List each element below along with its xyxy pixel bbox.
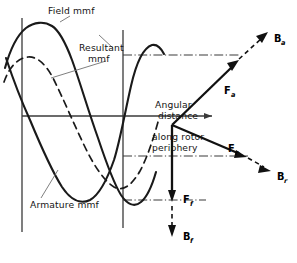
vector-bf-arrowhead [168, 225, 176, 237]
label-vector-ff-subscript: f [190, 200, 194, 208]
leader-armature-mmf [41, 170, 58, 198]
xaxis-label-line-1: Angular [155, 99, 192, 110]
label-vector-ba-subscript: a [281, 39, 286, 47]
curve-resultant-mmf [4, 57, 158, 189]
leader-field-mmf [60, 16, 70, 22]
label-vector-fa-subscript: a [231, 91, 236, 99]
label-vector-bf-subscript: f [190, 237, 194, 245]
label-armature-mmf: Armature mmf [30, 199, 100, 210]
vector-ba-shaft [239, 38, 262, 59]
label-vector-fr: F [228, 143, 235, 154]
label-vector-ff: F [183, 194, 190, 205]
vector-br-arrowhead [258, 165, 271, 173]
xaxis-label-line-4: periphery [152, 142, 198, 153]
figure-canvas: Field mmf Resultant mmf Armature mmf Ang… [0, 0, 297, 263]
x-axis-arrowhead [204, 113, 212, 119]
label-vector-br-subscript: r [284, 177, 288, 185]
label-resultant-mmf-line2: mmf [88, 53, 110, 64]
vector-br-shaft [248, 158, 264, 167]
mmf-phasor-figure: Field mmf Resultant mmf Armature mmf Ang… [0, 0, 297, 263]
label-field-mmf: Field mmf [48, 5, 95, 16]
curve-armature-mmf [6, 45, 164, 202]
label-resultant-mmf-line1: Resultant [79, 42, 124, 53]
label-vector-fa: F [224, 85, 231, 96]
